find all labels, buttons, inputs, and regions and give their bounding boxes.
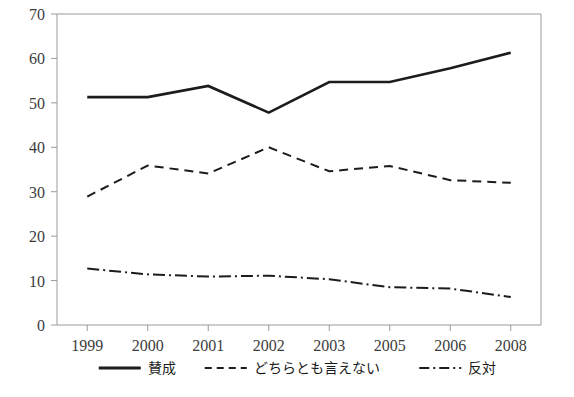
x-axis-tick-labels: 19992000200120022003200520062008 bbox=[71, 337, 527, 354]
x-tick-label: 1999 bbox=[71, 337, 103, 354]
plot-area-background bbox=[57, 14, 541, 325]
x-tick-label: 2005 bbox=[374, 337, 406, 354]
y-tick-label: 40 bbox=[29, 139, 45, 156]
legend-label-2: どちらとも言えない bbox=[254, 360, 380, 376]
chart-legend: 賛成どちらとも言えない反対 bbox=[99, 360, 497, 376]
y-tick-label: 60 bbox=[29, 50, 45, 67]
line-chart: 010203040506070 199920002001200220032005… bbox=[0, 0, 574, 397]
chart-container: 010203040506070 199920002001200220032005… bbox=[0, 0, 574, 397]
x-tick-label: 2002 bbox=[253, 337, 285, 354]
y-tick-label: 50 bbox=[29, 95, 45, 112]
x-tick-label: 2001 bbox=[192, 337, 224, 354]
y-axis-tick-labels: 010203040506070 bbox=[29, 6, 45, 334]
legend-label-3: 反対 bbox=[468, 360, 496, 376]
x-tick-label: 2003 bbox=[313, 337, 345, 354]
y-tick-label: 70 bbox=[29, 6, 45, 23]
y-tick-label: 20 bbox=[29, 228, 45, 245]
legend-label-1: 賛成 bbox=[148, 360, 176, 376]
x-axis-ticks bbox=[87, 325, 511, 331]
x-tick-label: 2006 bbox=[434, 337, 466, 354]
y-axis-ticks bbox=[51, 14, 57, 325]
x-tick-label: 2000 bbox=[132, 337, 164, 354]
x-tick-label: 2008 bbox=[495, 337, 527, 354]
y-tick-label: 10 bbox=[29, 273, 45, 290]
y-tick-label: 30 bbox=[29, 184, 45, 201]
y-tick-label: 0 bbox=[37, 317, 45, 334]
